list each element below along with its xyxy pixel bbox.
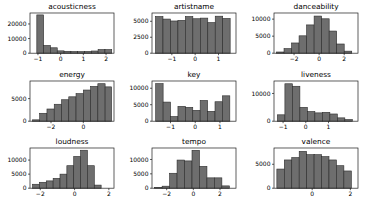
subplot-energy: energy05000−20 <box>0 68 122 136</box>
y-tick-label: 0 <box>145 117 149 124</box>
y-tick-label: 20000 <box>7 20 26 27</box>
histogram-bar <box>185 17 192 54</box>
histogram-bar <box>208 111 215 121</box>
y-tick-label: 0 <box>23 49 27 56</box>
histogram-bar <box>329 160 336 188</box>
y-tick-label: 0 <box>267 117 271 124</box>
histogram-bar <box>215 16 222 53</box>
x-tick-label: 1 <box>327 122 331 129</box>
histogram-bar <box>277 115 284 121</box>
bars <box>277 152 351 189</box>
histogram-bar <box>47 109 54 121</box>
histogram-bar <box>299 36 307 53</box>
plot-area-acousticness: acousticness01000020000−1012 <box>0 0 122 68</box>
histogram-bar <box>199 167 206 189</box>
histogram-bar <box>163 19 170 53</box>
histogram-bar <box>336 166 343 188</box>
subplot-title: valence <box>302 137 331 146</box>
histogram-bar <box>46 181 53 188</box>
histogram-bar <box>222 96 229 121</box>
x-tick-label: 0 <box>81 122 85 129</box>
y-tick-label: 10000 <box>7 35 26 42</box>
subplot-key: key0500010000−101 <box>122 68 244 136</box>
x-tick-label: 1 <box>217 55 221 62</box>
histogram-bar <box>98 83 105 120</box>
histogram-bar <box>40 113 47 121</box>
subplot-loudness: loudness0500010000−202 <box>0 135 122 203</box>
x-tick-label: 0 <box>317 55 321 62</box>
histogram-bar <box>208 23 215 54</box>
subplot-valence: valence0500002 <box>244 135 366 203</box>
bars <box>37 15 112 53</box>
subplot-acousticness: acousticness01000020000−1012 <box>0 0 122 68</box>
y-tick-label: 10000 <box>251 89 270 96</box>
histogram-bar <box>170 21 177 53</box>
histogram-bar <box>337 44 345 53</box>
x-tick-label: −1 <box>34 55 43 62</box>
x-tick-label: 2 <box>104 55 108 62</box>
histogram-bar <box>74 157 81 189</box>
subplot-title: liveness <box>301 69 331 78</box>
histogram-bar <box>300 107 307 121</box>
histogram-bar <box>285 83 292 120</box>
y-tick-label: 0 <box>267 185 271 192</box>
subplot-title: danceability <box>293 2 339 11</box>
bars <box>277 83 352 120</box>
y-tick-label: 10000 <box>129 84 148 91</box>
subplot-artistname: artistname025005000−101 <box>122 0 244 68</box>
subplot-liveness: liveness010000−101 <box>244 68 366 136</box>
subplot-title: key <box>188 69 202 78</box>
bars <box>33 151 102 189</box>
y-tick-label: 5000 <box>255 161 270 168</box>
histogram-bar <box>170 174 177 189</box>
histogram-bar <box>33 185 40 189</box>
subplot-title: acousticness <box>48 2 96 11</box>
x-tick-label: 2 <box>342 55 346 62</box>
histogram-bar <box>330 114 337 121</box>
histogram-bar <box>193 110 200 121</box>
x-tick-label: −2 <box>47 122 56 129</box>
histogram-bar <box>44 45 51 53</box>
histogram-bar <box>315 113 322 121</box>
subplot-title: tempo <box>182 137 206 146</box>
x-tick-label: −2 <box>162 190 171 197</box>
histogram-bar <box>200 18 207 53</box>
histogram-bar <box>98 50 105 54</box>
x-tick-label: 0 <box>73 190 77 197</box>
y-tick-label: 0 <box>145 185 149 192</box>
histogram-bar <box>67 166 74 188</box>
plot-area-valence: valence0500002 <box>244 135 366 203</box>
histogram-bar <box>284 160 291 188</box>
histogram-bar <box>314 16 322 53</box>
histogram-bar <box>207 178 214 188</box>
histogram-bar <box>322 112 329 121</box>
histogram-bar <box>307 111 314 121</box>
y-tick-label: 2500 <box>133 33 148 40</box>
histogram-bar <box>53 179 60 189</box>
y-tick-label: 0 <box>145 49 149 56</box>
histogram-bar <box>292 43 300 53</box>
histogram-bar <box>83 90 90 121</box>
y-tick-label: 0 <box>267 49 271 56</box>
x-tick-label: 0 <box>193 122 197 129</box>
histogram-bar <box>185 107 192 121</box>
y-tick-label: 5000 <box>11 171 26 178</box>
histogram-bar <box>292 86 299 121</box>
histogram-bar <box>178 106 185 121</box>
histogram-bar <box>337 118 344 121</box>
histogram-bar <box>344 171 351 188</box>
x-tick-label: −1 <box>166 122 175 129</box>
histogram-bar <box>60 175 67 189</box>
bars <box>32 83 111 120</box>
x-tick-label: −1 <box>279 122 288 129</box>
x-tick-label: 0 <box>304 122 308 129</box>
x-tick-label: 0 <box>191 190 195 197</box>
histogram-bar <box>284 49 292 54</box>
x-tick-label: 1 <box>218 122 222 129</box>
y-tick-label: 5000 <box>133 17 148 24</box>
histogram-bar <box>214 178 221 188</box>
histogram-bar <box>81 151 88 189</box>
plot-area-liveness: liveness010000−101 <box>244 68 366 136</box>
y-tick-label: 5000 <box>133 170 148 177</box>
histogram-bar <box>39 183 46 189</box>
